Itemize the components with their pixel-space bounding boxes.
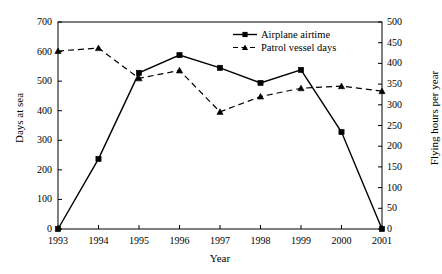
x-axis-tick-label: 2001 (360, 236, 404, 246)
y-axis-right-tick-label: 100 (387, 183, 427, 193)
y-axis-right-tick-label: 400 (387, 58, 427, 68)
series-marker (339, 129, 344, 134)
series-marker (258, 80, 263, 85)
series-marker (379, 226, 384, 231)
y-axis-left-title: Days at sea (13, 73, 25, 163)
series-marker (298, 85, 304, 91)
x-axis-tick-label: 1998 (239, 236, 283, 246)
series-line (58, 55, 382, 229)
x-axis-tick-label: 1997 (198, 236, 242, 246)
y-axis-right-tick-label: 200 (387, 141, 427, 151)
series-marker (55, 226, 60, 231)
y-axis-left-tick-label: 600 (12, 47, 52, 57)
y-axis-left-tick-label: 400 (12, 106, 52, 116)
x-axis-tick-label: 1995 (117, 236, 161, 246)
legend-solid-square-icon (232, 29, 258, 40)
y-axis-left-tick-label: 300 (12, 135, 52, 145)
legend-label: Airplane airtime (261, 28, 330, 41)
legend-item: Airplane airtime (232, 28, 336, 41)
series-marker (177, 53, 182, 58)
y-axis-right-tick-label: 0 (387, 224, 427, 234)
y-axis-left-tick-label: 700 (12, 17, 52, 27)
chart-legend: Airplane airtimePatrol vessel days (232, 28, 336, 54)
data-series-layer (55, 45, 385, 232)
y-axis-right-tick-label: 500 (387, 17, 427, 27)
x-axis-tick-label: 1999 (279, 236, 323, 246)
y-axis-right-tick-label: 250 (387, 121, 427, 131)
x-axis-title: Year (58, 252, 382, 264)
y-axis-left-tick-label: 500 (12, 76, 52, 86)
x-axis-tick-label: 1993 (36, 236, 80, 246)
chart-plot-area (0, 0, 442, 274)
x-axis-tick-label: 2000 (320, 236, 364, 246)
y-axis-right-tick-label: 350 (387, 79, 427, 89)
y-axis-right-title: Flying hours per year (428, 66, 440, 170)
x-axis-tick-label: 1996 (158, 236, 202, 246)
chart-container: Days at sea Flying hours per year Year 0… (0, 0, 442, 274)
legend-item: Patrol vessel days (232, 41, 336, 54)
y-axis-right-ticks (378, 22, 382, 229)
y-axis-right-tick-label: 300 (387, 100, 427, 110)
series-marker (217, 65, 222, 70)
legend-dashed-triangle-icon (232, 42, 258, 53)
x-axis-ticks (58, 225, 382, 229)
series-marker (96, 156, 101, 161)
y-axis-left-tick-label: 100 (12, 194, 52, 204)
y-axis-right-tick-label: 50 (387, 203, 427, 213)
legend-label: Patrol vessel days (261, 41, 336, 54)
y-axis-left-tick-label: 200 (12, 165, 52, 175)
y-axis-right-tick-label: 450 (387, 38, 427, 48)
series-marker (298, 67, 303, 72)
series-marker (95, 45, 101, 51)
series-line (58, 48, 382, 112)
x-axis-tick-label: 1994 (77, 236, 121, 246)
series-marker (176, 67, 182, 73)
y-axis-right-tick-label: 150 (387, 162, 427, 172)
y-axis-left-tick-label: 0 (12, 224, 52, 234)
